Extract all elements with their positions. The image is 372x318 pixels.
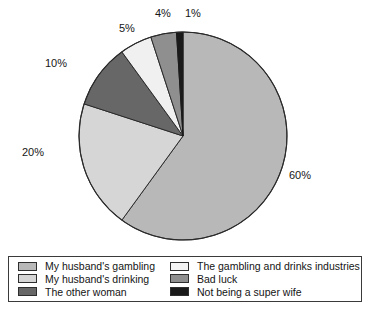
legend-label-the-gambling-and-drinks-industries: The gambling and drinks industries — [197, 260, 360, 272]
pie-chart-graphic — [0, 0, 372, 250]
pie-slices — [79, 32, 287, 240]
legend-item-my-husbands-drinking[interactable]: My husband's drinking — [9, 273, 161, 285]
pie-label-4-percent: 4% — [155, 7, 171, 19]
legend-label-bad-luck: Bad luck — [197, 273, 237, 285]
legend-grid: My husband's gambling The gambling and d… — [9, 257, 361, 301]
legend-item-the-gambling-and-drinks-industries[interactable]: The gambling and drinks industries — [161, 260, 363, 272]
legend-swatch-icon-the-gambling-and-drinks-industries — [170, 262, 189, 271]
legend-label-not-being-a-super-wife: Not being a super wife — [197, 286, 301, 298]
pie-label-5-percent: 5% — [119, 22, 135, 34]
legend-item-the-other-woman[interactable]: The other woman — [9, 286, 161, 298]
legend-swatch-icon-not-being-a-super-wife — [170, 287, 189, 296]
legend: My husband's gambling The gambling and d… — [8, 256, 362, 302]
legend-item-not-being-a-super-wife[interactable]: Not being a super wife — [161, 286, 363, 298]
pie-label-60-percent: 60% — [289, 169, 311, 181]
legend-swatch-icon-bad-luck — [170, 274, 189, 283]
pie-label-1-percent: 1% — [185, 7, 201, 19]
legend-swatch-icon-the-other-woman — [18, 287, 37, 296]
pie-label-10-percent: 10% — [45, 57, 67, 69]
legend-label-the-other-woman: The other woman — [45, 286, 127, 298]
legend-item-bad-luck[interactable]: Bad luck — [161, 273, 363, 285]
pie-chart-area: 60% 20% 10% 5% 4% 1% — [0, 0, 372, 250]
legend-label-my-husbands-drinking: My husband's drinking — [45, 273, 149, 285]
pie-label-20-percent: 20% — [22, 146, 44, 158]
legend-swatch-icon-my-husbands-drinking — [18, 274, 37, 283]
legend-item-my-husbands-gambling[interactable]: My husband's gambling — [9, 260, 161, 272]
legend-label-my-husbands-gambling: My husband's gambling — [45, 260, 155, 272]
legend-swatch-icon-my-husbands-gambling — [18, 262, 37, 271]
